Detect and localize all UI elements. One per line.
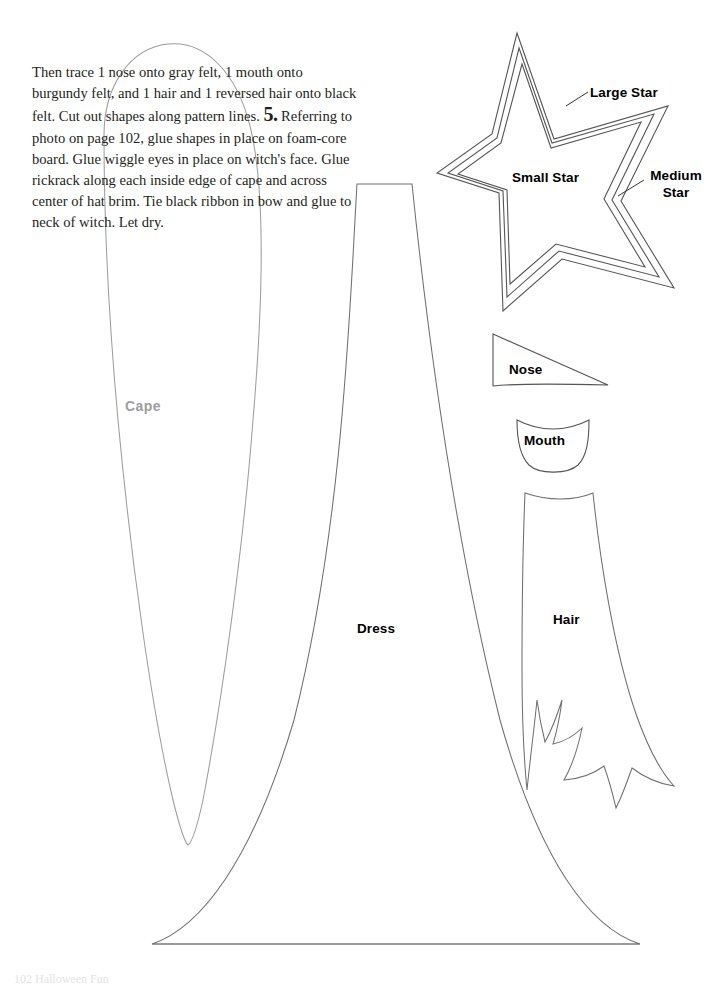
label-cape: Cape <box>125 398 161 414</box>
instruction-text-block: Then trace 1 nose onto gray felt, 1 mout… <box>32 62 362 234</box>
label-mouth: Mouth <box>524 433 565 448</box>
label-dress: Dress <box>357 621 395 636</box>
label-small-star: Small Star <box>512 170 579 185</box>
medium-star-leader-line <box>618 180 644 196</box>
pattern-page: Then trace 1 nose onto gray felt, 1 mout… <box>0 0 713 985</box>
label-medium-star: Medium Star <box>645 167 707 201</box>
label-medium-star-line1: Medium <box>645 167 707 184</box>
hair-shape <box>522 493 674 808</box>
step-5-text: Referring to photo on page 102, glue sha… <box>32 108 352 230</box>
label-large-star: Large Star <box>590 85 658 100</box>
instruction-paragraph: Then trace 1 nose onto gray felt, 1 mout… <box>32 62 362 234</box>
label-medium-star-line2: Star <box>645 184 707 201</box>
page-footer: 102 Halloween Fun <box>14 972 109 984</box>
dress-shape <box>152 184 640 944</box>
nose-shape <box>493 334 608 386</box>
label-hair: Hair <box>553 612 580 627</box>
large-star-leader-line <box>566 92 588 106</box>
label-nose: Nose <box>509 362 542 377</box>
step-number: 5. <box>263 103 277 125</box>
